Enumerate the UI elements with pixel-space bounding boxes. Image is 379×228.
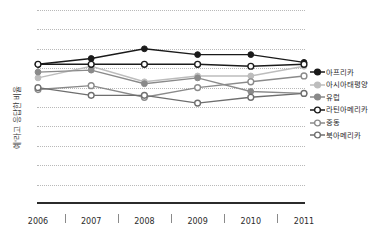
legend-item-label: 유럽	[326, 94, 340, 101]
series-line	[38, 64, 304, 66]
legend-item-1[interactable]: 아프리카	[309, 66, 379, 79]
series-line	[38, 49, 304, 65]
series-layer	[37, 10, 305, 204]
data-point	[88, 67, 94, 73]
x-axis-separator	[277, 214, 278, 223]
series-4	[35, 61, 307, 69]
chart-container: 예'라고 응답한 비율 0102030405060708090100 20062…	[0, 0, 379, 228]
filled-circle-marker-icon	[309, 79, 326, 91]
legend-item-label: 아프리카	[326, 69, 354, 76]
legend-item-5[interactable]: 중동	[309, 116, 379, 129]
data-point	[248, 73, 254, 79]
data-point	[248, 63, 254, 69]
x-axis-separator	[65, 214, 66, 223]
x-axis-tick-label: 2006	[18, 217, 58, 226]
legend-item-6[interactable]: 북아메리카	[309, 129, 379, 142]
data-point	[248, 52, 254, 58]
data-point	[35, 75, 41, 81]
open-circle-marker-icon	[309, 117, 326, 129]
data-point	[195, 75, 201, 81]
data-point	[35, 85, 41, 91]
data-point	[195, 100, 201, 106]
data-point	[248, 94, 254, 100]
data-point	[88, 92, 94, 98]
legend-item-4[interactable]: 라틴아메리카	[309, 104, 379, 117]
x-axis-tick-label: 2008	[124, 217, 164, 226]
data-point	[301, 73, 307, 79]
data-point	[88, 56, 94, 62]
legend-item-label: 아시아태평양	[326, 81, 368, 88]
filled-circle-marker-icon	[309, 91, 326, 103]
data-point	[195, 85, 201, 91]
x-axis-separator	[171, 214, 172, 223]
chart-legend: 아프리카아시아태평양유럽라틴아메리카중동북아메리카	[309, 66, 379, 142]
data-point	[195, 61, 201, 67]
data-point	[301, 61, 307, 67]
x-axis-separator	[224, 214, 225, 223]
x-axis-tick-label: 2009	[178, 217, 218, 226]
data-point	[142, 61, 148, 67]
data-point	[35, 69, 41, 75]
data-point	[248, 79, 254, 85]
data-point	[35, 61, 41, 67]
x-axis-tick-label: 2011	[284, 217, 324, 226]
legend-item-label: 중동	[326, 119, 340, 126]
data-point	[142, 81, 148, 87]
legend-item-3[interactable]: 유럽	[309, 91, 379, 104]
data-point	[195, 52, 201, 58]
plot-area: 0102030405060708090100 20062007200820092…	[37, 10, 305, 204]
legend-item-label: 라틴아메리카	[326, 106, 368, 113]
x-axis-separator	[118, 214, 119, 223]
series-line	[38, 88, 304, 104]
y-axis-title: 예'라고 응답한 비율	[11, 58, 22, 178]
legend-item-label: 북아메리카	[326, 132, 361, 139]
data-point	[88, 61, 94, 67]
data-point	[88, 83, 94, 89]
legend-item-2[interactable]: 아시아태평양	[309, 79, 379, 92]
data-point	[248, 89, 254, 95]
data-point	[301, 91, 307, 97]
x-axis-tick-label: 2007	[71, 217, 111, 226]
data-point	[142, 46, 148, 52]
open-circle-marker-icon	[309, 129, 326, 141]
open-circle-marker-icon	[309, 104, 326, 116]
series-6	[35, 85, 307, 106]
series-line	[38, 66, 304, 82]
filled-circle-marker-icon	[309, 66, 326, 78]
data-point	[142, 92, 148, 98]
x-axis-tick-label: 2010	[231, 217, 271, 226]
